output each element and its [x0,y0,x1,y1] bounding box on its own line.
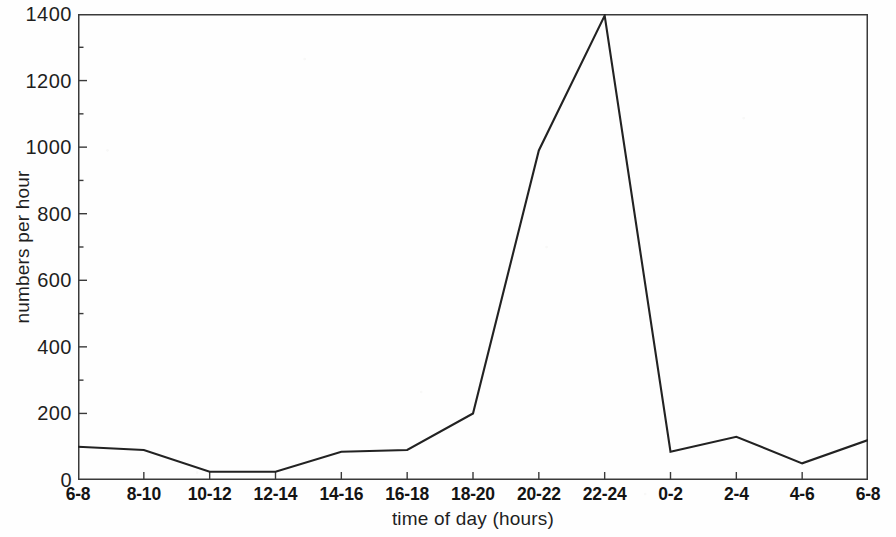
x-axis-tick-label: 16-18 [385,484,429,505]
x-axis-tick-label: 12-14 [254,484,298,505]
line-chart-svg [78,14,868,480]
y-axis-tick-label: 1400 [26,3,73,26]
x-axis-tick-label: 22-24 [583,484,627,505]
x-axis-tick-label: 2-4 [724,484,749,505]
x-axis-tick-label: 8-10 [127,484,161,505]
y-axis-tick-label: 600 [37,269,72,292]
y-axis-tick-label: 1200 [26,69,73,92]
x-axis-label: time of day (hours) [78,508,868,530]
x-axis-tick-label: 0-2 [658,484,683,505]
y-axis-tick-label: 1000 [26,136,73,159]
y-axis-tick-labels: 0200400600800100012001400 [12,0,72,537]
plot-area [78,14,868,480]
x-axis-tick-label: 10-12 [188,484,232,505]
x-axis-tick-label: 4-6 [790,484,815,505]
y-axis-tick-label: 800 [37,202,72,225]
x-axis-tick-label: 6-8 [856,484,881,505]
y-axis-tick-label: 200 [37,402,72,425]
x-axis-tick-label: 18-20 [451,484,495,505]
data-series-line [78,16,868,472]
y-axis-tick-label: 400 [37,335,72,358]
x-axis-tick-label: 20-22 [517,484,561,505]
chart-figure: numbers per hour 02004006008001000120014… [0,0,896,537]
x-axis-tick-label: 14-16 [319,484,363,505]
x-axis-tick-label: 6-8 [66,484,91,505]
